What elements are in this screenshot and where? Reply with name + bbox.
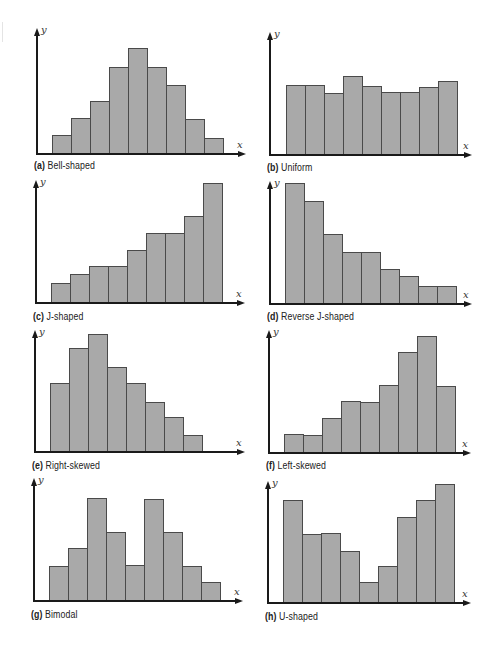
histogram-bar <box>397 517 417 603</box>
caption-title: U-shaped <box>279 611 318 622</box>
histogram-bar <box>302 534 322 603</box>
histogram-bar <box>359 582 379 603</box>
x-axis-arrow-icon <box>463 600 471 606</box>
caption: (h) U-shaped <box>265 611 318 622</box>
histogram-bar <box>378 566 398 603</box>
y-axis-label: y <box>272 478 278 488</box>
histogram-bar <box>416 500 436 603</box>
caption-letter: (h) <box>265 611 277 622</box>
y-axis <box>267 485 269 603</box>
histogram-bar <box>340 551 360 603</box>
x-axis-label: x <box>462 589 468 599</box>
histogram-bar <box>283 500 303 603</box>
histogram-bar <box>321 533 341 603</box>
y-axis-arrow-icon <box>265 481 271 489</box>
x-axis <box>267 602 465 604</box>
panel-h-u-shaped: (h) U-shaped yx <box>0 0 497 650</box>
histogram-bar <box>435 484 455 603</box>
